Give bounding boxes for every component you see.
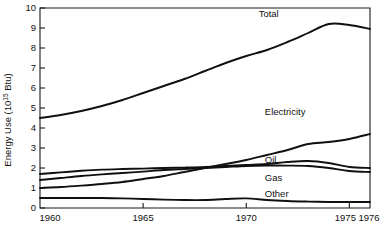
x-tick-label: 1965: [133, 212, 154, 223]
y-tick-label: 8: [31, 42, 36, 53]
y-tick-label: 5: [31, 102, 36, 113]
y-axis-title: Energy Use (1015 Btu): [2, 73, 14, 166]
y-tick-label: 1: [31, 182, 36, 193]
chart-canvas: Energy Use (1015 Btu) 012345678910 19601…: [0, 0, 381, 236]
y-tick-label: 2: [31, 162, 36, 173]
energy-use-line-chart: Energy Use (1015 Btu) 012345678910 19601…: [0, 0, 381, 236]
series-curve-gas: [40, 166, 370, 180]
y-tick-label-group: 012345678910: [25, 2, 36, 213]
series-label-other: Other: [265, 188, 289, 199]
y-tick-label: 7: [31, 62, 36, 73]
y-tick-mark-group: [40, 8, 45, 208]
y-tick-label: 0: [31, 202, 36, 213]
series-curve-total: [40, 23, 370, 118]
y-tick-label: 6: [31, 82, 36, 93]
y-axis-title-main: Energy Use (10: [2, 101, 13, 167]
y-axis-title-tail: Btu): [2, 73, 13, 93]
y-tick-label: 9: [31, 22, 36, 33]
x-tick-label: 1960: [39, 212, 60, 223]
series-label-gas: Gas: [265, 172, 283, 183]
series-label-oil: Oil: [265, 154, 277, 165]
series-label-total: Total: [259, 8, 279, 19]
y-tick-label: 4: [31, 122, 36, 133]
series-label-electricity: Electricity: [265, 106, 306, 117]
x-tick-label: 1970: [236, 212, 257, 223]
x-tick-label: 1976: [358, 212, 379, 223]
series-curve-group: [40, 23, 370, 202]
y-tick-label: 3: [31, 142, 36, 153]
x-tick-label-group: 19601965197019751976: [39, 212, 379, 223]
x-tick-mark-group: [143, 203, 349, 208]
svg-text:Energy Use (1015 Btu): Energy Use (1015 Btu): [2, 73, 14, 166]
series-curve-other: [40, 198, 370, 202]
y-tick-label: 10: [25, 2, 36, 13]
plot-frame: [40, 8, 370, 208]
x-tick-label: 1975: [335, 212, 356, 223]
